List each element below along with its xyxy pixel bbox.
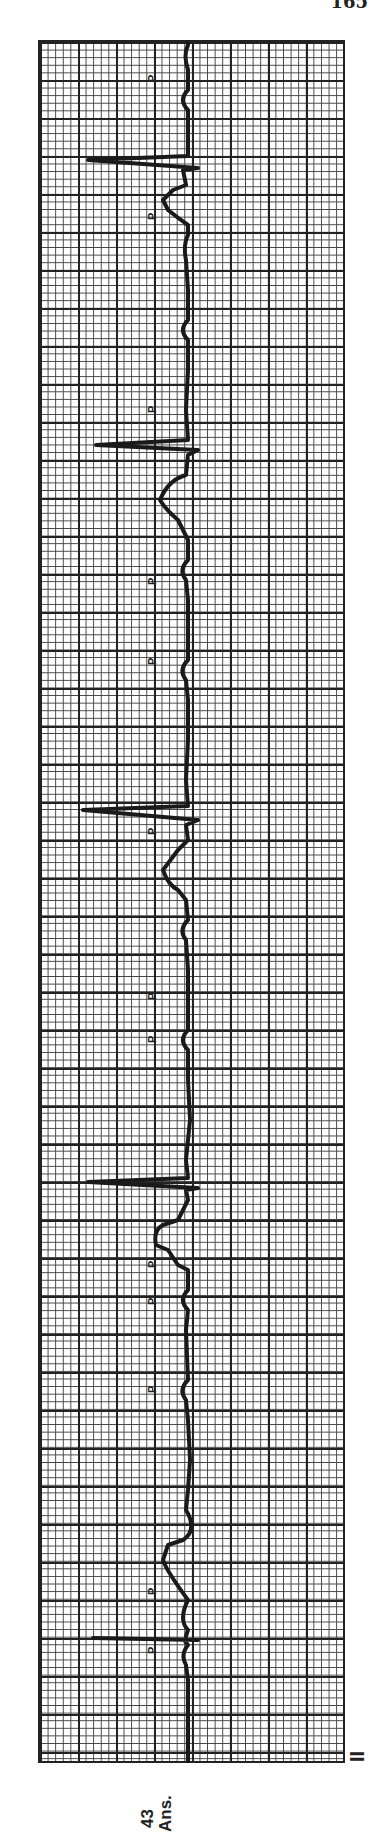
p-wave-label: P	[146, 75, 158, 82]
p-wave-label: P	[146, 1036, 158, 1043]
p-wave-label: P	[146, 658, 158, 665]
p-wave-label: P	[146, 828, 158, 835]
page-number: 165	[330, 0, 368, 12]
p-wave-label: P	[146, 1298, 158, 1305]
p-wave-label: P	[146, 1386, 158, 1393]
p-wave-label: P	[146, 993, 158, 1000]
patient-age-label: 43 Ans.	[130, 1770, 190, 1830]
ecg-trace: P P P P P P P P P P P P P	[38, 40, 345, 1763]
p-wave-label: P	[146, 406, 158, 413]
p-wave-label: P	[146, 578, 158, 585]
p-wave-label: P	[146, 1261, 158, 1268]
p-wave-label: P	[146, 1588, 158, 1595]
p-wave-labels: P P P P P P P P P P P P P	[146, 75, 158, 1654]
age-value: 43	[138, 1809, 158, 1828]
p-wave-label: P	[146, 213, 158, 220]
age-unit: Ans.	[156, 1795, 176, 1832]
lead-label: II	[346, 1751, 369, 1762]
p-wave-label: P	[146, 1647, 158, 1654]
